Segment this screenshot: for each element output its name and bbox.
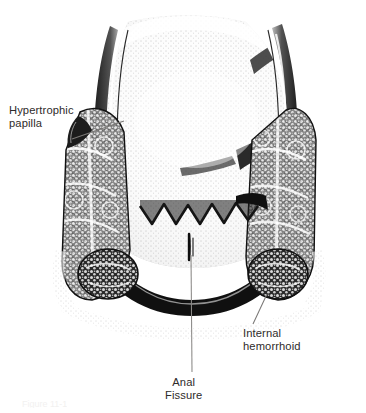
figure-anal-canal: Hypertrophic papilla Internal hemorrhoid… <box>0 0 366 413</box>
label-hypertrophic-papilla: Hypertrophic papilla <box>9 104 74 131</box>
figure-caption-clipped: Figure 11-1 <box>22 399 67 408</box>
label-internal-hemorrhoid: Internal hemorrhoid <box>243 327 301 354</box>
internal-hemorrhoid-mass-left <box>78 249 138 299</box>
internal-hemorrhoid-mass-right <box>248 249 308 299</box>
anatomy-illustration <box>0 0 366 413</box>
label-anal-fissure: Anal Fissure <box>165 376 202 403</box>
